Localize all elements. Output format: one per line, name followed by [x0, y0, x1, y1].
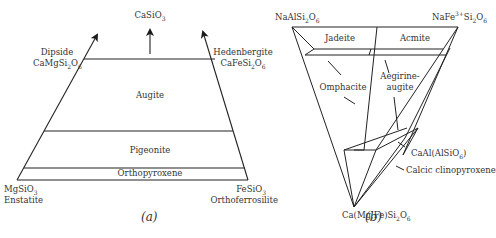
field-jadeite: Jadeite [315, 33, 365, 44]
panel-b-lines [292, 27, 458, 207]
diopside-label: Dipside CaMgSi2O6 [33, 47, 81, 69]
orthoferrosilite-label: FeSiO3 Orthoferrosilite [208, 184, 278, 206]
enstatite-label: MgSiO3 Enstatite [4, 184, 43, 206]
caal-vertex-label: CaAl(AlSiO6) [411, 148, 466, 159]
field-acmite: Acmite [390, 33, 440, 44]
caption-b: (b) [365, 210, 382, 224]
jadeite-endmember-label: NaAlSi2O6 [275, 12, 320, 23]
caption-a: (a) [141, 210, 158, 224]
field-orthopyroxene: Orthopyroxene [105, 168, 195, 179]
field-calcic-clinopyroxene: Calcic clinopyroxene [406, 165, 496, 176]
field-aegirine-augite: Aegirine- augite [375, 71, 425, 93]
acmite-endmember-label: NaFe3+Si2O6 [432, 12, 487, 23]
field-augite: Augite [125, 90, 175, 101]
field-omphacite: Omphacite [318, 82, 368, 93]
casio3-label: CaSiO3 [130, 10, 170, 21]
field-pigeonite: Pigeonite [120, 145, 180, 156]
hedenbergite-label: Hedenbergite CaFeSi2O6 [213, 47, 273, 69]
